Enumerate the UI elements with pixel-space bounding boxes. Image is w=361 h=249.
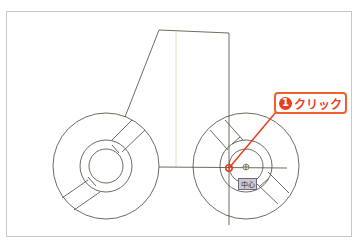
chassis-line [159, 167, 287, 168]
snap-tooltip: 中心 [238, 178, 257, 190]
snap-tooltip-label: 中心 [241, 179, 255, 189]
callout-label: クリック [294, 95, 342, 112]
left-wheel [53, 113, 159, 219]
cabin-outline [125, 30, 229, 225]
cad-canvas[interactable] [0, 0, 361, 249]
click-callout: 1 クリック [274, 92, 347, 114]
step-number-badge: 1 [279, 97, 292, 110]
center-snap-icon [243, 164, 249, 170]
